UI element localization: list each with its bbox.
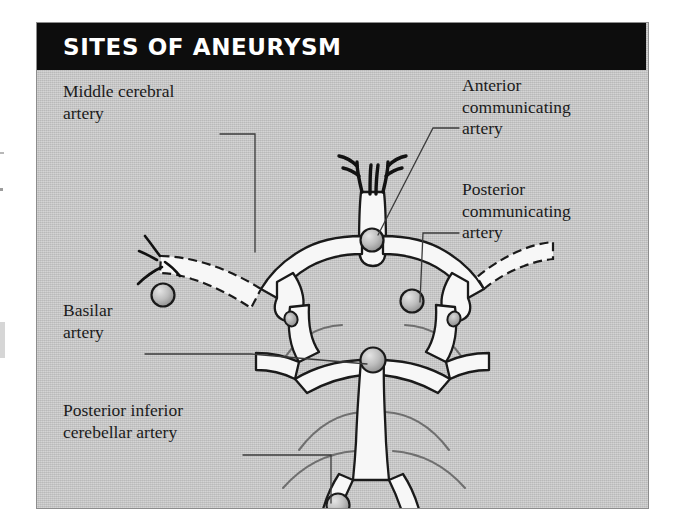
title-bar: SITES OF ANEURYSM bbox=[37, 23, 646, 70]
basilar-artery-aneurysm bbox=[361, 348, 386, 373]
label-posterior-inferior-cerebellar-artery: Posterior inferior cerebellar artery bbox=[63, 400, 278, 443]
posterior-cerebral-artery-left-p1 bbox=[295, 360, 363, 393]
page-edge-artifact bbox=[0, 322, 5, 358]
page-edge-artifact bbox=[0, 152, 4, 154]
posterior-cerebral-artery-right-p1 bbox=[382, 360, 450, 393]
posterior-cerebral-artery-right bbox=[446, 353, 489, 379]
figure-title: SITES OF ANEURYSM bbox=[63, 34, 342, 60]
label-middle-cerebral-artery: Middle cerebral artery bbox=[63, 81, 248, 124]
figure-panel: SITES OF ANEURYSM bbox=[36, 22, 649, 509]
scanned-page: SITES OF ANEURYSM bbox=[0, 0, 673, 526]
leader-posterior-inferior-cerebellar bbox=[243, 455, 331, 503]
leader-anterior-communicating bbox=[378, 128, 459, 235]
label-anterior-communicating-artery: Anterior communicating artery bbox=[462, 75, 637, 140]
label-basilar-artery: Basilar artery bbox=[63, 300, 213, 343]
middle-cerebral-artery-right-dashed bbox=[477, 242, 553, 289]
basilar-artery bbox=[353, 360, 389, 480]
label-posterior-communicating-artery: Posterior communicating artery bbox=[462, 179, 637, 244]
posterior-inferior-cerebellar-artery-aneurysm bbox=[327, 494, 350, 509]
leader-middle-cerebral-artery bbox=[220, 134, 255, 252]
vertebral-artery-right bbox=[389, 474, 421, 508]
anterior-cerebral-artery-distal-branches bbox=[339, 156, 406, 194]
page-edge-artifact bbox=[0, 188, 3, 191]
